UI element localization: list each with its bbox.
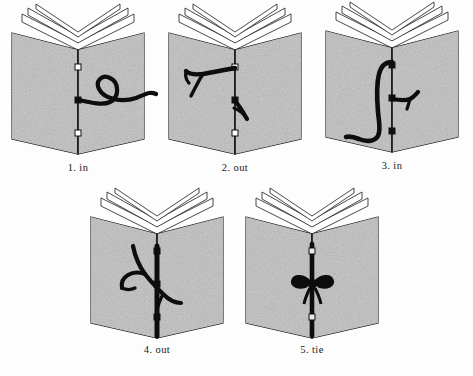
figure-1: 1. in [0, 2, 158, 192]
figure-4-caption: 4. out [77, 344, 237, 355]
figure-1-caption: 1. in [0, 162, 158, 173]
spine-hole-bottom [75, 130, 81, 136]
figure-4-illustration [77, 186, 237, 354]
figure-5-caption: 5. tie [232, 344, 392, 355]
figure-5-illustration [232, 186, 392, 354]
figure-3-illustration [312, 0, 472, 168]
pamphlet-stitch-diagram: 1. in [0, 0, 473, 376]
spine-hole-bottom [309, 314, 315, 320]
spine-hole-bottom [389, 128, 395, 134]
figure-1-illustration [0, 2, 158, 170]
figure-3-caption: 3. in [312, 160, 472, 171]
figure-3: 3. in [312, 0, 472, 190]
spine-hole-bottom [232, 130, 238, 136]
figure-2-illustration [155, 2, 315, 170]
figure-5: 5. tie [232, 186, 392, 376]
figure-2: 2. out [155, 2, 315, 192]
figure-2-caption: 2. out [155, 162, 315, 173]
figure-4: 4. out [77, 186, 237, 376]
spine-hole-top [309, 248, 315, 254]
spine-hole-top [75, 64, 81, 70]
